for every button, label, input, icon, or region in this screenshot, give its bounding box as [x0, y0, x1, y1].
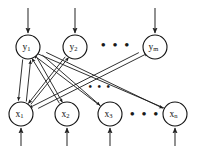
node-subscript-ym: m	[153, 46, 158, 53]
edge-x1-y1-up	[26, 60, 30, 101]
edge-y1-x3-down	[42, 55, 99, 105]
node-subscript-x1: 1	[20, 113, 23, 120]
node-y1[interactable]: y1	[16, 35, 40, 59]
node-x1[interactable]: x1	[9, 102, 33, 126]
node-ym[interactable]: ym	[143, 35, 167, 59]
node-subscript-y2: 2	[74, 46, 77, 53]
node-xn[interactable]: xn	[163, 102, 187, 126]
external-input-arrows-top	[28, 8, 155, 33]
edge-y2-x1-down	[28, 57, 65, 104]
node-subscript-x2: 2	[66, 113, 69, 120]
diagram-canvas: y1y2ymx1x2x3xn • • •• • •• • •	[0, 0, 197, 151]
x-row-ellipsis: • • •	[130, 106, 160, 121]
bam-network-diagram: y1y2ymx1x2x3xn • • •• • •• • •	[0, 0, 197, 151]
node-x2[interactable]: x2	[55, 102, 79, 126]
external-input-arrows-bottom	[21, 128, 175, 146]
mid-ellipsis: • • •	[88, 81, 111, 92]
node-subscript-y1: 1	[27, 46, 30, 53]
node-subscript-x3: 3	[109, 113, 112, 120]
y-row-ellipsis: • • •	[101, 37, 131, 52]
node-y2[interactable]: y2	[63, 35, 87, 59]
node-x3[interactable]: x3	[98, 102, 122, 126]
edge-y1-x1-down	[18, 59, 22, 100]
